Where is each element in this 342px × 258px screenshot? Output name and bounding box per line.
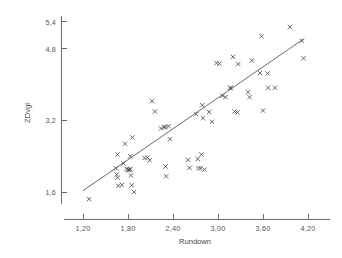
scatter-plot-figure: 5,44,83,21,6 1,201,802,403,003,604,20 Ru… <box>0 0 342 258</box>
data-point-marker <box>115 172 119 176</box>
data-point-marker <box>261 108 265 112</box>
data-point-marker <box>120 183 124 187</box>
data-point-marker <box>186 158 190 162</box>
data-point-marker <box>231 55 235 59</box>
data-point-marker <box>259 34 263 38</box>
data-point-marker <box>114 166 118 170</box>
y-tick-label: 4,8 <box>26 44 56 53</box>
y-tick-label: 5,4 <box>26 17 56 26</box>
data-point-marker <box>247 95 251 99</box>
data-point-marker <box>148 158 152 162</box>
data-point-marker <box>196 157 200 161</box>
data-point-marker <box>200 103 204 107</box>
data-point-marker <box>164 174 168 178</box>
data-point-marker <box>115 175 119 179</box>
axes-group <box>61 16 330 219</box>
data-point-marker <box>265 71 269 75</box>
data-point-marker <box>301 56 305 60</box>
data-point-marker <box>116 184 120 188</box>
x-tick-label: 1,20 <box>76 224 91 233</box>
data-point-marker <box>130 183 134 187</box>
data-point-marker <box>236 62 240 66</box>
y-axis-title: ZDvgl <box>23 103 32 123</box>
data-point-marker <box>153 109 157 113</box>
data-point-marker <box>168 137 172 141</box>
y-tick-label: 1,6 <box>26 188 56 197</box>
data-point-marker <box>246 90 250 94</box>
plot-canvas <box>0 0 342 258</box>
data-point-marker <box>250 58 254 62</box>
data-point-marker <box>132 190 136 194</box>
data-point-marker <box>202 167 206 171</box>
x-tick-label: 2,40 <box>166 224 181 233</box>
data-point-marker <box>196 166 200 170</box>
data-point-marker <box>123 141 127 145</box>
data-point-marker <box>210 120 214 124</box>
data-point-marker <box>87 197 91 201</box>
data-point-marker <box>129 173 133 177</box>
data-point-marker <box>266 86 270 90</box>
data-point-marker <box>199 152 203 156</box>
data-point-marker <box>115 152 119 156</box>
data-point-marker <box>130 135 134 139</box>
x-axis-title: Rundown <box>179 237 211 246</box>
data-point-marker <box>217 61 221 65</box>
data-point-marker <box>187 166 191 170</box>
data-point-marker <box>288 25 292 29</box>
data-point-marker <box>273 86 277 90</box>
x-tick-label: 1,80 <box>121 224 136 233</box>
data-point-marker <box>163 164 167 168</box>
x-tick-label: 3,00 <box>211 224 226 233</box>
x-tick-label: 3,60 <box>256 224 271 233</box>
x-tick-label: 4,20 <box>301 224 316 233</box>
data-point-marker <box>199 166 203 170</box>
data-point-marker <box>207 110 211 114</box>
data-point-marker <box>258 71 262 75</box>
data-point-marker <box>150 99 154 103</box>
data-point-marker <box>201 116 205 120</box>
